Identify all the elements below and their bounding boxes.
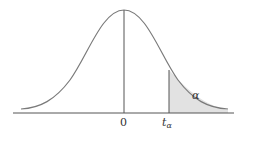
center-label: 0 [120,116,127,129]
t-distribution-diagram: 0 tα α [0,0,254,141]
alpha-area-label: α [192,89,200,102]
critical-label: tα [162,116,172,130]
